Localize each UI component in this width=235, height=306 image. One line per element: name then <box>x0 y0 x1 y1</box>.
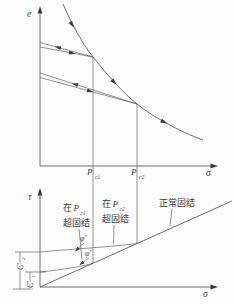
pc1-label: P <box>86 167 93 177</box>
unload-arrow-icon <box>54 45 61 51</box>
c1-label-group: C′ 1 <box>26 276 36 289</box>
bottom-x-axis-arrow-icon <box>211 285 219 290</box>
bottom-y-axis-arrow-icon <box>38 188 43 196</box>
oc2-leader-line <box>114 225 115 245</box>
oc1-envelope-curve <box>40 263 93 272</box>
top-x-axis-label: σ <box>206 168 211 178</box>
c2-label-group: C′ 2 <box>16 257 26 270</box>
diagram-canvas: e σ P c1 P c2 τ σ φ′ φ′ 在 P c1 超固结 在 P c… <box>0 0 235 306</box>
bottom-x-axis-label: σ <box>203 289 208 299</box>
pc2-subscript: c2 <box>139 174 144 180</box>
reload-line-1 <box>40 47 93 57</box>
c1-label: C′ <box>26 281 35 288</box>
soil-consolidation-strength-figure: e σ P c1 P c2 τ σ φ′ φ′ 在 P c1 超固结 在 P c… <box>0 0 235 306</box>
nc-leader-line <box>170 209 172 226</box>
curve-arrow-icon <box>160 119 168 126</box>
top-y-axis-arrow-icon <box>38 6 43 14</box>
pc1-subscript: c1 <box>95 174 100 180</box>
oc1-label-line2: 超固结 <box>63 217 90 228</box>
unload-line-2 <box>40 73 137 104</box>
c2-label: C′ <box>16 263 25 270</box>
c2-subscript: 2 <box>21 257 26 260</box>
top-y-axis-label: e <box>27 9 31 19</box>
oc1-label-sub: c1 <box>81 210 86 216</box>
nc-envelope-line <box>40 201 232 287</box>
virgin-compression-curve <box>63 4 203 140</box>
c1-subscript: 1 <box>31 276 36 279</box>
oc2-label-sub: c2 <box>120 206 125 212</box>
nc-label: 正常固结 <box>159 197 195 208</box>
phi1-label: φ′ <box>80 234 86 243</box>
oc2-label-line2: 超固结 <box>102 213 129 224</box>
unload-line-1 <box>40 43 93 58</box>
oc2-label-prefix: 在 <box>102 198 111 209</box>
oc1-label-prefix: 在 <box>63 202 72 213</box>
pc2-label: P <box>130 167 137 177</box>
top-x-axis-arrow-icon <box>211 164 219 169</box>
phi2-label: φ′ <box>85 249 91 258</box>
bottom-y-axis-label: τ <box>28 192 32 202</box>
oc2-label-p: P <box>112 199 119 209</box>
oc1-label-p: P <box>73 203 80 213</box>
